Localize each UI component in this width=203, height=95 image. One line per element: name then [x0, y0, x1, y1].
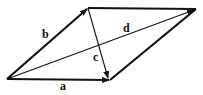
parallelogram-diagram: a b c d — [0, 0, 203, 95]
label-a: a — [60, 79, 66, 93]
vector-d — [7, 10, 194, 79]
vector-b — [7, 9, 87, 79]
label-b: b — [42, 27, 49, 41]
label-c: c — [93, 50, 99, 64]
vector-a — [7, 79, 109, 80]
side-right — [110, 9, 196, 80]
label-d: d — [123, 21, 130, 35]
side-top — [88, 8, 196, 9]
